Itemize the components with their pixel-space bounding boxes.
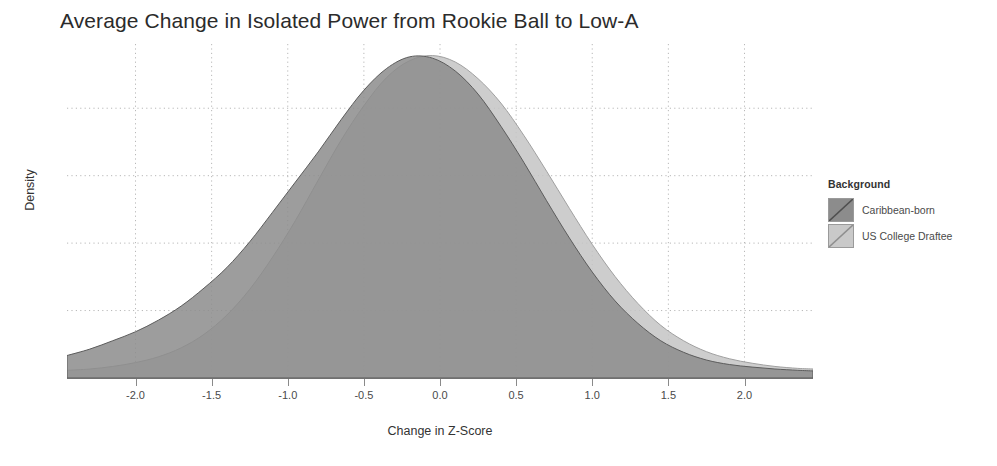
legend-swatch-college bbox=[828, 224, 854, 248]
legend-item[interactable]: Caribbean-born bbox=[828, 198, 993, 222]
x-axis-label: Change in Z-Score bbox=[67, 424, 813, 438]
x-tick-label: -1.0 bbox=[278, 389, 297, 401]
legend: Background Caribbean-bornUS College Draf… bbox=[828, 178, 993, 250]
x-tick-label: 2.0 bbox=[737, 389, 752, 401]
legend-swatch-caribbean bbox=[828, 198, 854, 222]
x-tick-label: -1.5 bbox=[202, 389, 221, 401]
legend-title: Background bbox=[828, 178, 993, 190]
x-axis-tickmarks bbox=[67, 379, 813, 388]
x-tick-label: 1.5 bbox=[661, 389, 676, 401]
chart-root: Average Change in Isolated Power from Ro… bbox=[0, 0, 997, 466]
x-tick-label: 0.5 bbox=[508, 389, 523, 401]
chart-title: Average Change in Isolated Power from Ro… bbox=[60, 9, 639, 33]
legend-item[interactable]: US College Draftee bbox=[828, 224, 993, 248]
x-axis-tick-labels: -2.0-1.5-1.0-0.50.00.51.01.52.0 bbox=[67, 389, 813, 407]
x-tick-label: -0.5 bbox=[354, 389, 373, 401]
legend-label: US College Draftee bbox=[862, 230, 952, 242]
y-axis-label: Density bbox=[23, 169, 37, 211]
legend-label: Caribbean-born bbox=[862, 204, 935, 216]
x-tick-label: 1.0 bbox=[585, 389, 600, 401]
x-tick-label: -2.0 bbox=[126, 389, 145, 401]
plot-area bbox=[67, 44, 813, 378]
legend-entries: Caribbean-bornUS College Draftee bbox=[828, 198, 993, 248]
density-curves bbox=[67, 44, 813, 378]
x-tick-label: 0.0 bbox=[432, 389, 447, 401]
